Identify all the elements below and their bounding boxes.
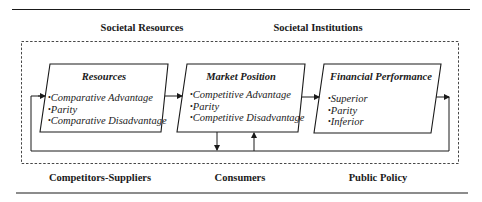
list-item: Parity: [48, 104, 167, 116]
list-item: Parity: [190, 101, 305, 113]
list-item: Competitive Disadvantage: [190, 112, 305, 124]
label-societal-institutions: Societal Institutions: [274, 22, 363, 33]
resources-box-title: Resources: [82, 71, 126, 82]
list-item: Competitive Advantage: [190, 89, 305, 101]
label-public-policy: Public Policy: [349, 172, 408, 183]
resources-box-items: Comparative Advantage Parity Comparative…: [48, 92, 167, 127]
market-position-box-title: Market Position: [206, 71, 276, 82]
list-item: Comparative Advantage: [48, 92, 167, 104]
list-item: Superior: [328, 93, 368, 105]
label-competitors-suppliers: Competitors-Suppliers: [49, 172, 151, 183]
list-item: Inferior: [328, 116, 368, 128]
financial-performance-box-title: Financial Performance: [330, 71, 432, 82]
label-consumers: Consumers: [215, 172, 266, 183]
market-position-box-items: Competitive Advantage Parity Competitive…: [190, 89, 305, 124]
list-item: Comparative Disadvantage: [48, 115, 167, 127]
list-item: Parity: [328, 105, 368, 117]
label-societal-resources: Societal Resources: [101, 22, 184, 33]
financial-performance-box-items: Superior Parity Inferior: [328, 93, 368, 128]
